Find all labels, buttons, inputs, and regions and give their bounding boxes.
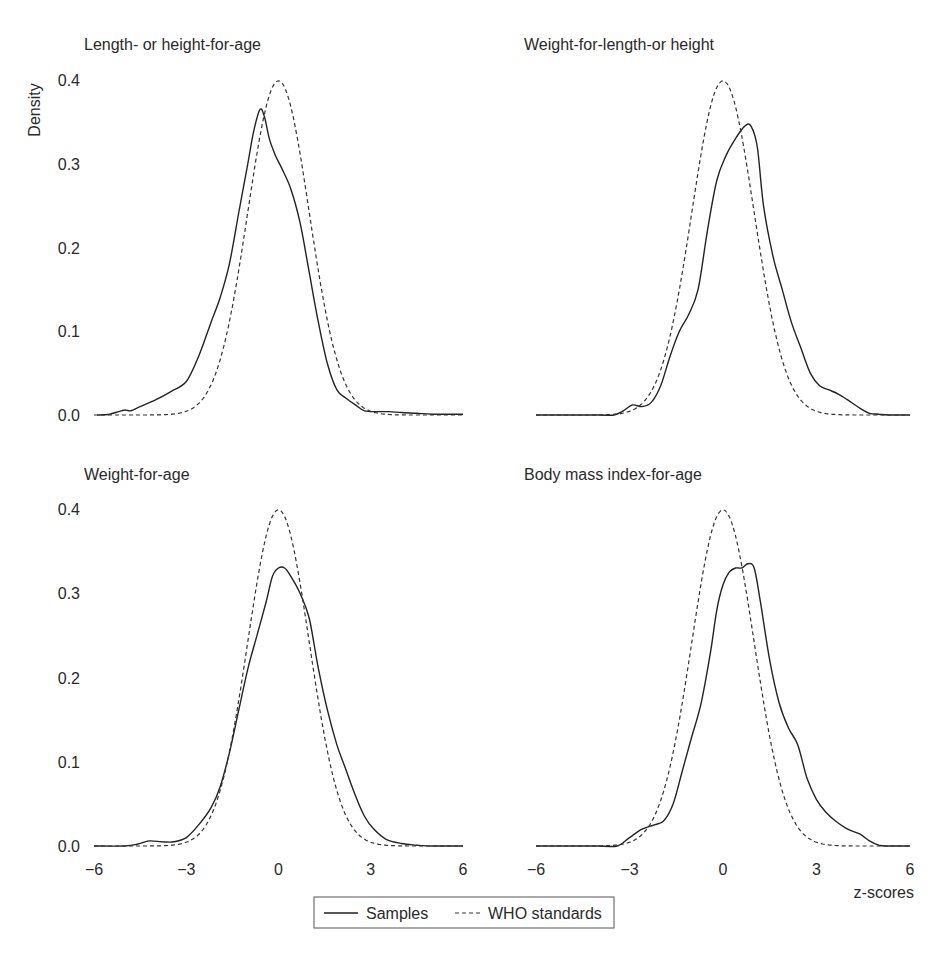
panel-title: Length- or height-for-age <box>84 36 261 53</box>
who-standards-line <box>536 510 910 846</box>
panel-1: Length- or height-for-age0.00.10.20.30.4… <box>26 36 463 424</box>
y-tick-label: 0.3 <box>58 585 80 602</box>
x-tick-label: 6 <box>459 861 468 878</box>
x-tick-label: 3 <box>366 861 375 878</box>
y-tick-label: 0.2 <box>58 240 80 257</box>
x-tick-label: 0 <box>274 861 283 878</box>
x-tick-label: 3 <box>812 861 821 878</box>
y-tick-label: 0.0 <box>58 838 80 855</box>
panel-title: Weight-for-length-or height <box>524 36 715 53</box>
who-standards-line <box>536 81 910 415</box>
x-tick-label: −6 <box>527 861 545 878</box>
y-tick-label: 0.4 <box>58 501 80 518</box>
y-tick-label: 0.1 <box>58 323 80 340</box>
samples-line <box>94 567 463 846</box>
x-tick-label: −3 <box>177 861 195 878</box>
y-tick-label: 0.3 <box>58 156 80 173</box>
panel-2: Weight-for-length-or height <box>524 36 910 415</box>
samples-line <box>536 124 910 415</box>
y-tick-label: 0.2 <box>58 670 80 687</box>
x-axis-label: z-scores <box>854 884 914 901</box>
y-tick-label: 0.1 <box>58 754 80 771</box>
legend-who-label: WHO standards <box>488 905 602 922</box>
panel-title: Weight-for-age <box>84 466 190 483</box>
y-axis-label: Density <box>26 83 43 136</box>
y-tick-label: 0.0 <box>58 407 80 424</box>
panel-title: Body mass index-for-age <box>524 466 702 483</box>
who-standards-line <box>94 81 463 415</box>
x-tick-label: −6 <box>85 861 103 878</box>
x-tick-label: −3 <box>620 861 638 878</box>
who-standards-line <box>94 510 463 846</box>
panel-4: Body mass index-for-age−6−3036z-scores <box>524 466 915 901</box>
samples-line <box>536 563 910 846</box>
x-tick-label: 6 <box>906 861 915 878</box>
samples-line <box>97 109 463 415</box>
legend-samples-label: Samples <box>366 905 428 922</box>
y-tick-label: 0.4 <box>58 72 80 89</box>
density-figure: Length- or height-for-age0.00.10.20.30.4… <box>0 0 944 959</box>
panel-3: Weight-for-age0.00.10.20.30.4−6−3036 <box>58 466 468 878</box>
x-tick-label: 0 <box>719 861 728 878</box>
legend: Samples WHO standards <box>314 897 614 928</box>
